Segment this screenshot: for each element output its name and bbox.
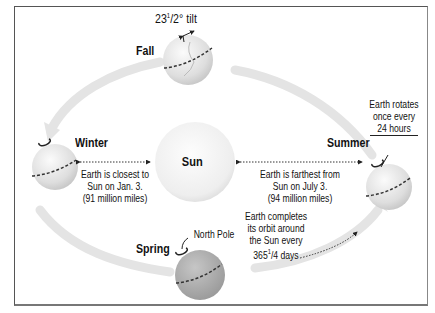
sun-label: Sun [182, 154, 203, 169]
farthest-distance-note: Earth is farthest from Sun on July 3. (9… [255, 168, 345, 204]
season-label-fall: Fall [136, 44, 154, 58]
season-label-summer: Summer [327, 136, 370, 150]
orbit-arrow-winter-to-spring [40, 210, 170, 272]
orbit-diagram [0, 0, 435, 313]
north-pole-label: North Pole [189, 228, 238, 240]
tilt-label: 231/2° tilt [155, 12, 197, 26]
rotation-underline [370, 135, 418, 136]
orbit-completion-note: Earth completes its orbit around the Sun… [245, 210, 307, 261]
globe-summer [366, 160, 412, 210]
orbit-arrow-fall-to-winter [52, 62, 160, 128]
rotation-note: Earth rotates once every 24 hours [361, 98, 427, 134]
globe-fall [163, 35, 213, 85]
closest-distance-note: Earth is closest to Sun on Jan. 3. (91 m… [72, 168, 159, 204]
season-label-spring: Spring [136, 242, 170, 256]
season-label-winter: Winter [75, 136, 108, 150]
globe-spring [175, 248, 225, 300]
